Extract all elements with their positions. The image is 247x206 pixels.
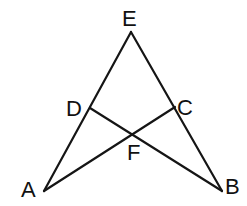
label-C: C [177, 95, 193, 120]
segment-AE [44, 32, 131, 191]
label-E: E [122, 6, 137, 31]
label-B: B [225, 174, 240, 199]
label-D: D [66, 96, 82, 121]
label-F: F [127, 140, 140, 165]
label-A: A [21, 177, 36, 202]
geometry-diagram: E D C F A B [0, 0, 247, 206]
